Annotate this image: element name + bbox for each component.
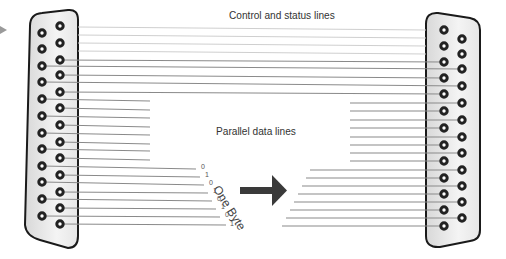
control-status-label: Control and status lines [229, 9, 335, 21]
bit-2: 0 [209, 179, 213, 186]
right-connector [426, 13, 480, 247]
left-connector [25, 10, 78, 248]
bit-4: 0 [217, 195, 221, 202]
parallel-data-label: Parallel data lines [216, 125, 296, 137]
bit-1: 1 [205, 171, 209, 178]
control-status-lines [42, 27, 462, 94]
bit-5: 1 [221, 203, 225, 210]
arrow-right-icon [240, 175, 287, 206]
bit-3: 1 [213, 187, 217, 194]
bit-0: 0 [201, 163, 205, 170]
bit-6: 0 [225, 211, 229, 218]
triangle-right-icon [0, 26, 7, 34]
bit-7: 1 [230, 220, 234, 227]
